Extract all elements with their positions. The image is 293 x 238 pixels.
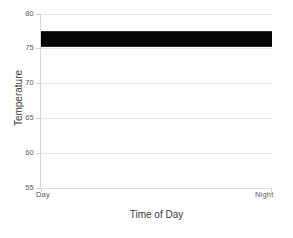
y-tick-mark-65	[36, 118, 41, 119]
chart-figure: 80 75 70 65 60 55 Day Night Time of Day …	[0, 0, 293, 238]
temperature-series	[41, 31, 272, 47]
series-upper-envelope	[41, 31, 272, 32]
gridline-75	[41, 48, 272, 49]
y-axis-spine	[40, 14, 41, 189]
y-tick-label-55: 55	[4, 184, 34, 192]
y-tick-mark-75	[36, 48, 41, 49]
y-tick-mark-80	[36, 14, 41, 15]
series-lower-envelope	[41, 46, 272, 47]
y-axis-title: Temperature	[14, 38, 24, 158]
y-tick-mark-70	[36, 83, 41, 84]
gridline-70	[41, 83, 272, 84]
y-tick-label-80: 80	[4, 10, 34, 18]
plot-area	[41, 14, 272, 188]
x-tick-label-night: Night	[255, 191, 274, 199]
y-tick-mark-60	[36, 153, 41, 154]
gridline-60	[41, 153, 272, 154]
x-tick-label-day: Day	[36, 191, 50, 199]
gridline-80	[41, 14, 272, 15]
x-axis-title: Time of Day	[41, 210, 272, 220]
x-axis-spine	[41, 188, 272, 189]
gridline-65	[41, 118, 272, 119]
